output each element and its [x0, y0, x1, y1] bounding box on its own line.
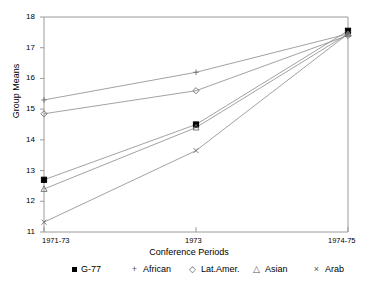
legend-label: Lat.Amer. — [201, 264, 240, 274]
series-line-g-77 — [44, 31, 348, 180]
y-tick-label-14: 14 — [11, 135, 35, 144]
filled-square-icon — [72, 267, 77, 272]
x-tick-label-0: 1971-73 — [42, 236, 70, 245]
x-axis-title: Conference Periods — [0, 247, 378, 257]
legend-item-g-77[interactable]: G-77 — [72, 264, 101, 274]
legend-item-arab[interactable]: ×Arab — [312, 264, 344, 274]
y-tick-label-13: 13 — [11, 166, 35, 175]
series-line-african — [44, 34, 348, 100]
marker-african-0 — [41, 97, 47, 103]
legend-label: African — [143, 264, 171, 274]
legend-item-lat-amer-[interactable]: ◇Lat.Amer. — [188, 264, 240, 274]
legend-label: G-77 — [81, 264, 101, 274]
legend-item-asian[interactable]: △Asian — [252, 264, 288, 274]
marker-g-77-0 — [41, 177, 46, 182]
y-tick-label-18: 18 — [11, 12, 35, 21]
series-line-asian — [44, 34, 348, 189]
diamond-icon: ◇ — [188, 265, 197, 274]
legend-item-african[interactable]: +African — [130, 264, 171, 274]
chart-root: 1817161514131211 1971-7319731974-75 Grou… — [0, 0, 378, 290]
cross-icon: × — [312, 265, 321, 274]
marker-african-1 — [193, 69, 199, 75]
legend-label: Asian — [265, 264, 288, 274]
y-tick-label-11: 11 — [11, 227, 35, 236]
plot-area: 1817161514131211 1971-7319731974-75 Grou… — [0, 0, 378, 290]
plus-icon: + — [130, 265, 139, 274]
triangle-icon: △ — [252, 265, 261, 274]
legend-label: Arab — [325, 264, 344, 274]
chart-legend: G-77+African◇Lat.Amer.△Asian×Arab — [0, 264, 378, 280]
marker-arab-1 — [194, 148, 199, 153]
x-tick-label-1: 1973 — [185, 236, 202, 245]
y-axis-title: Group Means — [11, 46, 21, 136]
x-tick-label-2: 1974-75 — [328, 236, 356, 245]
y-tick-label-12: 12 — [11, 196, 35, 205]
